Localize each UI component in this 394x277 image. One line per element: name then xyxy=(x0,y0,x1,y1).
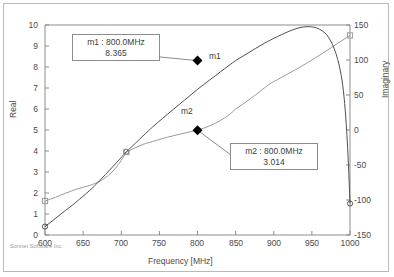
y-axis-right-title: Imaginary xyxy=(380,61,390,98)
marker-label-m2: m2 xyxy=(181,106,193,116)
y-axis-left-tick-8: 8 xyxy=(22,63,38,72)
y-axis-right-tick-neg100: -100 xyxy=(354,196,371,205)
y-axis-left-tick-7: 7 xyxy=(22,84,38,93)
y-axis-right-tick-150: 150 xyxy=(354,21,368,30)
y-axis-left-tick-3: 3 xyxy=(22,168,38,177)
x-axis-tick-900: 900 xyxy=(260,239,288,248)
y-axis-right-tick-neg50: -50 xyxy=(354,161,366,170)
x-axis-tick-950: 950 xyxy=(298,239,326,248)
watermark-text: Sonnet Software Inc. xyxy=(10,243,63,249)
x-axis-title: Frequency [MHz] xyxy=(148,256,213,266)
annotation-box-m1: m1 : 800.0MHz 8.365 xyxy=(72,34,160,61)
x-axis-tick-1000: 1000 xyxy=(336,239,364,248)
marker-m2 xyxy=(193,125,203,135)
annotation-m2-line2: 3.014 xyxy=(235,157,313,168)
y-axis-right-tick-100: 100 xyxy=(354,56,368,65)
y-axis-left-tick-10: 10 xyxy=(22,21,38,30)
y-axis-left-tick-2: 2 xyxy=(22,189,38,198)
x-axis-tick-800: 800 xyxy=(183,239,211,248)
y-axis-left-tick-6: 6 xyxy=(22,105,38,114)
x-axis-tick-700: 700 xyxy=(107,239,135,248)
annotation-m1-line2: 8.365 xyxy=(77,48,155,59)
y-axis-left-tick-1: 1 xyxy=(22,210,38,219)
x-axis-tick-850: 850 xyxy=(222,239,250,248)
y-axis-right-tick-0: 0 xyxy=(354,126,359,135)
y-axis-left-tick-5: 5 xyxy=(22,126,38,135)
marker-label-m1: m1 xyxy=(209,51,221,61)
annotation-m1-line1: m1 : 800.0MHz xyxy=(77,37,155,48)
y-axis-left-tick-9: 9 xyxy=(22,42,38,51)
chart-canvas xyxy=(0,0,394,277)
marker-m1 xyxy=(193,56,203,66)
x-axis-ticks xyxy=(45,231,350,235)
y-axis-left-title: Real xyxy=(8,101,18,118)
y-axis-left-tick-4: 4 xyxy=(22,147,38,156)
x-axis-tick-750: 750 xyxy=(145,239,173,248)
y-axis-right-tick-50: 50 xyxy=(354,91,363,100)
x-axis-tick-650: 650 xyxy=(69,239,97,248)
annotation-box-m2: m2 : 800.0MHz 3.014 xyxy=(230,143,318,170)
annotation-m2-line1: m2 : 800.0MHz xyxy=(235,146,313,157)
